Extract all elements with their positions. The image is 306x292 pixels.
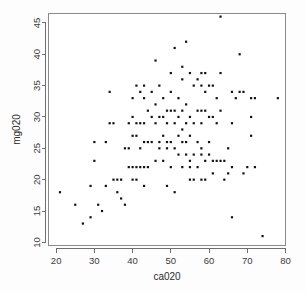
data-point	[132, 116, 134, 118]
data-point	[97, 204, 99, 206]
data-point	[154, 59, 156, 61]
data-point	[204, 72, 206, 74]
y-tick-label: 25	[31, 143, 42, 154]
data-point	[200, 179, 202, 181]
x-axis-title: ca020	[153, 271, 181, 282]
data-point	[112, 179, 114, 181]
data-point	[162, 116, 164, 118]
data-point	[212, 85, 214, 87]
data-point	[204, 91, 206, 93]
data-point	[200, 147, 202, 149]
scatter-plot-figure: 20304050607080 1015202530354045 ca020 mg…	[0, 0, 306, 292]
data-point	[235, 97, 237, 99]
data-point	[174, 147, 176, 149]
data-point	[227, 172, 229, 174]
data-point	[174, 122, 176, 124]
data-point	[250, 97, 252, 99]
data-point	[139, 166, 141, 168]
data-point	[59, 191, 61, 193]
data-point	[139, 91, 141, 93]
data-point	[219, 160, 221, 162]
data-point	[216, 97, 218, 99]
data-point	[166, 141, 168, 143]
y-tick-label: 40	[31, 49, 42, 60]
y-tick-label: 45	[31, 18, 42, 29]
data-point	[151, 116, 153, 118]
data-point	[216, 122, 218, 124]
data-point	[162, 160, 164, 162]
data-point	[89, 216, 91, 218]
data-point	[158, 85, 160, 87]
x-axis-ticks: 20304050607080	[51, 249, 291, 266]
data-point	[177, 97, 179, 99]
y-tick-label: 10	[31, 237, 42, 248]
data-point	[200, 85, 202, 87]
x-tick-label: 50	[166, 255, 177, 266]
y-tick-label: 35	[31, 80, 42, 91]
data-point	[242, 91, 244, 93]
data-point	[212, 116, 214, 118]
data-point	[177, 153, 179, 155]
data-point	[93, 160, 95, 162]
data-point	[181, 166, 183, 168]
data-point	[143, 166, 145, 168]
data-point	[242, 172, 244, 174]
data-point	[189, 166, 191, 168]
data-point	[231, 91, 233, 93]
data-point	[132, 166, 134, 168]
x-tick-label: 60	[204, 255, 215, 266]
data-point	[196, 166, 198, 168]
data-point	[170, 91, 172, 93]
data-point	[219, 110, 221, 112]
data-point	[250, 116, 252, 118]
data-point	[154, 160, 156, 162]
data-point	[174, 110, 176, 112]
data-point	[135, 85, 137, 87]
data-point	[154, 103, 156, 105]
data-point	[143, 85, 145, 87]
data-point	[135, 179, 137, 181]
data-point	[181, 110, 183, 112]
data-point	[105, 185, 107, 187]
data-point	[223, 160, 225, 162]
data-point	[196, 78, 198, 80]
plot-canvas: 20304050607080 1015202530354045 ca020 mg…	[0, 0, 306, 292]
data-point	[101, 210, 103, 212]
data-point	[185, 153, 187, 155]
data-point	[204, 110, 206, 112]
data-point	[158, 147, 160, 149]
data-point	[231, 216, 233, 218]
data-point	[200, 122, 202, 124]
data-point	[193, 179, 195, 181]
data-point	[166, 110, 168, 112]
data-point	[166, 122, 168, 124]
data-point	[250, 135, 252, 137]
data-point	[196, 141, 198, 143]
data-point	[277, 97, 279, 99]
y-tick-label: 30	[31, 112, 42, 123]
data-point	[116, 179, 118, 181]
data-point	[219, 16, 221, 18]
data-point	[128, 122, 130, 124]
data-point	[189, 116, 191, 118]
plot-panel	[49, 14, 286, 246]
data-point	[132, 135, 134, 137]
data-point	[227, 147, 229, 149]
x-tick-label: 30	[89, 255, 100, 266]
x-tick-label: 70	[242, 255, 253, 266]
data-point	[200, 153, 202, 155]
data-point	[231, 122, 233, 124]
data-point	[124, 147, 126, 149]
data-point	[216, 160, 218, 162]
data-point	[189, 179, 191, 181]
data-point	[143, 122, 145, 124]
data-point	[166, 185, 168, 187]
data-point	[166, 147, 168, 149]
data-point	[105, 141, 107, 143]
data-point	[223, 179, 225, 181]
x-tick-label: 20	[51, 255, 62, 266]
data-point	[212, 160, 214, 162]
data-point	[93, 141, 95, 143]
data-point	[193, 122, 195, 124]
data-point	[74, 204, 76, 206]
